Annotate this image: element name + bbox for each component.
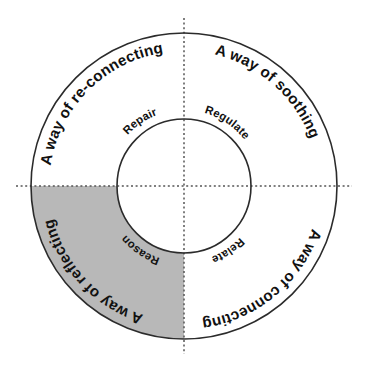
wheel-svg: A way of re-connecting A way of soothing… [0,0,365,376]
segment-bottom-left-highlighted[interactable] [31,186,184,339]
circular-diagram: A way of re-connecting A way of soothing… [0,0,365,376]
